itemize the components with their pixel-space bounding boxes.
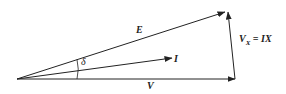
vector-i xyxy=(17,58,172,79)
vector-vx xyxy=(228,12,235,79)
label-vx-eq: = IX xyxy=(250,33,271,44)
delta-angle-arc xyxy=(77,60,78,80)
label-i: I xyxy=(174,53,178,64)
phasor-svg xyxy=(0,0,286,94)
label-vx: VX = IX xyxy=(239,33,272,47)
phasor-diagram: E I V δ VX = IX xyxy=(0,0,286,94)
vector-e xyxy=(17,12,225,79)
label-delta: δ xyxy=(81,56,86,67)
label-v: V xyxy=(147,80,154,91)
label-e: E xyxy=(136,24,143,35)
label-vx-main: V xyxy=(239,33,246,44)
